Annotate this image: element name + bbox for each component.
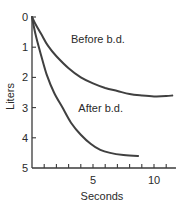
labels-layer: Before b.d.After b.d. (71, 33, 125, 114)
liters-vs-seconds-chart: 012345510SecondsLiters Before b.d.After … (0, 0, 186, 207)
y-tick-label: 5 (22, 162, 28, 174)
chart-canvas: 012345510SecondsLiters Before b.d.After … (0, 0, 186, 207)
y-axis-title: Liters (4, 83, 16, 110)
x-tick-label: 10 (148, 174, 160, 186)
y-tick-label: 0 (22, 11, 28, 23)
series-line-before-b-d (32, 17, 172, 96)
x-tick-label: 5 (90, 174, 96, 186)
y-tick-label: 3 (22, 102, 28, 114)
series-label-after-b-d: After b.d. (78, 102, 123, 114)
x-axis-title: Seconds (81, 190, 124, 202)
y-tick-label: 4 (22, 132, 28, 144)
y-tick-label: 1 (22, 41, 28, 53)
series-label-before-b-d: Before b.d. (71, 33, 125, 45)
y-tick-label: 2 (22, 71, 28, 83)
